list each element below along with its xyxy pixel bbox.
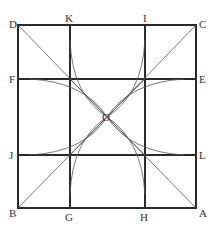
geometry-diagram: D K I C F E O J L B G H A — [0, 0, 219, 237]
label-F: F — [9, 74, 15, 85]
label-B: B — [9, 208, 16, 219]
label-H: H — [140, 212, 148, 223]
label-D: D — [9, 19, 17, 30]
label-E: E — [199, 74, 206, 85]
label-G: G — [65, 212, 73, 223]
label-J: J — [9, 150, 13, 161]
label-I: I — [143, 13, 147, 24]
label-K: K — [65, 13, 73, 24]
label-O: O — [102, 112, 110, 123]
line-p2-O — [107, 79, 145, 117]
line-p4-O — [107, 117, 145, 155]
label-C: C — [199, 19, 206, 30]
label-A: A — [199, 208, 207, 219]
label-L: L — [199, 150, 206, 161]
curve-F-O — [30, 79, 107, 117]
curve-J-O — [30, 117, 107, 155]
